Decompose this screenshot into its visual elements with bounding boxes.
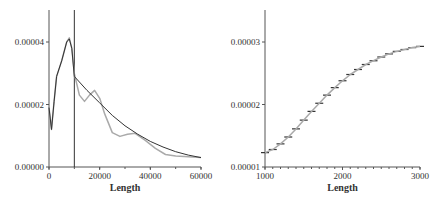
right-density-chart: 0.000010.000020.00003100020003000Length xyxy=(231,10,430,193)
x-tick-label: 20000 xyxy=(88,171,111,181)
x-tick-label: 3000 xyxy=(411,171,430,181)
series-line xyxy=(49,38,201,158)
x-tick-label: 0 xyxy=(47,171,52,181)
y-tick-label: 0.00000 xyxy=(15,162,45,172)
left-density-chart: 0.000000.000020.000040200004000060000Len… xyxy=(15,10,213,193)
y-tick-label: 0.00004 xyxy=(15,37,45,47)
x-tick-label: 2000 xyxy=(334,171,353,181)
x-tick-label: 1000 xyxy=(256,171,275,181)
y-tick-label: 0.00002 xyxy=(15,100,44,110)
charts-figure: 0.000000.000020.000040200004000060000Len… xyxy=(0,0,442,198)
y-tick-label: 0.00002 xyxy=(231,100,260,110)
x-axis-label: Length xyxy=(327,182,358,193)
x-tick-label: 40000 xyxy=(139,171,162,181)
x-axis-label: Length xyxy=(110,182,141,193)
y-tick-label: 0.00003 xyxy=(231,37,261,47)
series-line xyxy=(265,46,420,152)
x-tick-label: 60000 xyxy=(190,171,213,181)
series-line xyxy=(49,39,201,158)
